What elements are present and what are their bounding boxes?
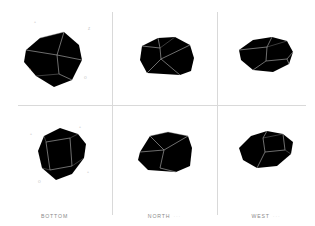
shape-west-elevation-shaded (217, 106, 315, 196)
caption-bottom-left: BOTTOM (0, 213, 112, 219)
caption-bottom-middle: NORTH··· (112, 213, 217, 219)
axis-marker-tl-3: + (29, 68, 31, 71)
panel-top-left (0, 12, 112, 105)
panel-bottom-right (217, 106, 315, 196)
caption-bottom-right: WEST··· (217, 213, 315, 219)
shape-oblique-top (0, 12, 112, 105)
shape-bottom-plan (0, 106, 112, 196)
caption-bottom-right-sub: ··· (273, 213, 281, 219)
caption-bottom-right-label: WEST (251, 213, 269, 219)
panel-bottom-left (0, 106, 112, 196)
axis-marker-bl-1: + (30, 133, 32, 136)
panel-bottom-middle (112, 106, 217, 196)
axis-marker-tl-2: Z (88, 28, 90, 31)
shape-north-elevation-shaded (112, 106, 217, 196)
caption-bottom-middle-sub: ··· (173, 213, 181, 219)
shape-west-elevation (217, 12, 315, 105)
caption-bottom-left-label: BOTTOM (41, 213, 68, 219)
axis-marker-bl-2: + (79, 126, 81, 129)
caption-bottom-middle-label: NORTH (148, 213, 171, 219)
axis-marker-bl-4: O (38, 181, 41, 184)
axis-marker-tl-4: O (84, 77, 87, 80)
axis-marker-tl-1: + (34, 21, 36, 24)
multi-view-figure: + Z + O + (0, 0, 315, 226)
panel-top-right (217, 12, 315, 105)
axis-marker-bl-3: + (87, 171, 89, 174)
shape-north-elevation (112, 12, 217, 105)
panel-top-middle (112, 12, 217, 105)
